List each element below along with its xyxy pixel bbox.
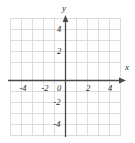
y-tick-label: 2 (57, 46, 62, 56)
x-tick-label: -4 (19, 83, 27, 93)
x-axis-arrowhead-icon (119, 78, 126, 84)
y-axis (63, 15, 69, 137)
y-tick-label: 4 (57, 24, 62, 34)
x-axis-label: x (124, 62, 129, 72)
y-axis-label: y (61, 3, 66, 13)
x-tick-label: -2 (41, 83, 49, 93)
coordinate-plane-figure: -4 -2 0 2 4 4 2 -2 -4 x y (0, 0, 135, 143)
y-tick-label: -4 (53, 119, 61, 129)
graph-canvas: -4 -2 0 2 4 4 2 -2 -4 x y (0, 0, 135, 143)
y-tick-label: -2 (53, 97, 61, 107)
